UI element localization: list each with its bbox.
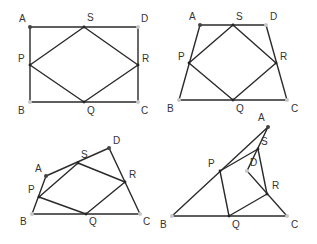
midpoint-parallelogram: [30, 27, 138, 102]
vertex-q: [83, 101, 86, 104]
vertex-b: [30, 212, 34, 216]
label-s: S: [261, 136, 268, 147]
outer-quadrilateral: [30, 27, 138, 102]
label-a: A: [189, 11, 196, 22]
vertex-r: [266, 193, 269, 196]
vertex-a: [44, 174, 48, 178]
label-c: C: [143, 216, 150, 227]
label-d: D: [250, 157, 257, 168]
label-c: C: [141, 105, 148, 116]
vertex-r: [124, 181, 127, 184]
label-c: C: [291, 103, 298, 114]
label-d: D: [141, 13, 148, 24]
figure-trapezoid: ASDPRBQC: [167, 11, 298, 114]
label-d: D: [270, 11, 277, 22]
label-r: R: [272, 180, 279, 191]
vertex-b: [170, 214, 174, 218]
label-a: A: [19, 13, 26, 24]
vertex-b: [177, 98, 181, 102]
vertex-a: [266, 125, 270, 129]
label-p: P: [28, 184, 35, 195]
vertex-c: [285, 214, 289, 218]
vertex-q: [232, 99, 235, 102]
label-q: Q: [236, 103, 244, 114]
label-r: R: [142, 53, 149, 64]
vertex-d: [107, 146, 111, 150]
vertex-c: [136, 100, 140, 104]
label-s: S: [81, 149, 88, 160]
midpoint-parallelogram: [189, 25, 276, 100]
vertex-c: [285, 98, 289, 102]
vertex-s: [77, 162, 80, 165]
midpoint-parallelogram: [39, 163, 125, 214]
vertex-a: [28, 25, 32, 29]
figure-concave-quadrilateral: ASDPRBQC: [160, 112, 298, 230]
label-r: R: [129, 169, 136, 180]
label-b: B: [20, 216, 27, 227]
outer-quadrilateral: [172, 127, 287, 216]
vertex-r: [275, 62, 278, 65]
vertex-d: [136, 25, 140, 29]
vertex-s: [232, 24, 235, 27]
label-q: Q: [89, 216, 97, 227]
label-q: Q: [87, 105, 95, 116]
label-c: C: [291, 219, 298, 230]
figure-general-quadrilateral: ASDPRBQC: [20, 135, 150, 227]
label-a: A: [258, 112, 265, 123]
vertex-q: [85, 213, 88, 216]
vertex-p: [29, 64, 32, 67]
label-p: P: [18, 53, 25, 64]
label-b: B: [160, 219, 167, 230]
varignon-diagrams: ASDPRBQC ASDPRBQC ASDPRBQC ASDPRBQC: [0, 0, 317, 244]
figure-rectangle: ASDPRBQC: [18, 12, 149, 116]
midpoint-parallelogram: [220, 149, 267, 216]
label-r: R: [280, 51, 287, 62]
label-a: A: [35, 163, 42, 174]
label-s: S: [87, 12, 94, 23]
vertex-d: [245, 169, 249, 173]
vertex-p: [188, 62, 191, 65]
vertex-b: [28, 100, 32, 104]
label-q: Q: [232, 219, 240, 230]
vertex-p: [219, 170, 222, 173]
vertex-d: [264, 23, 268, 27]
label-s: S: [236, 11, 243, 22]
outer-quadrilateral: [179, 25, 287, 100]
label-b: B: [167, 103, 174, 114]
label-b: B: [18, 105, 25, 116]
vertex-a: [198, 23, 202, 27]
label-p: P: [208, 158, 215, 169]
label-p: P: [178, 51, 185, 62]
vertex-c: [138, 212, 142, 216]
vertex-p: [38, 196, 41, 199]
vertex-s: [257, 148, 260, 151]
vertex-s: [83, 26, 86, 29]
vertex-r: [137, 64, 140, 67]
vertex-q: [228, 215, 231, 218]
label-d: D: [113, 135, 120, 146]
